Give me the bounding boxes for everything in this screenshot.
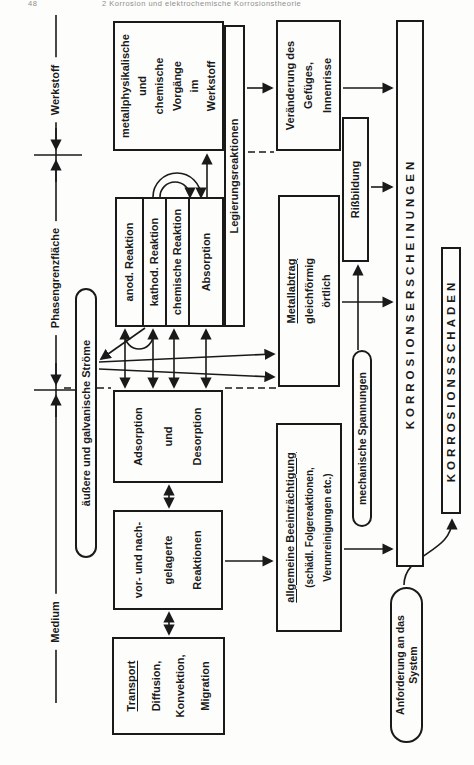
axis-label-phasengrenzflaeche: Phasengrenzfläche xyxy=(48,221,63,335)
anod-kathod-loop xyxy=(125,335,153,349)
metallphysik-line: Werkstoff xyxy=(205,61,218,112)
mechanische-spannungen-oval: mechanische Spannungen xyxy=(352,350,372,527)
veraenderung-line: Gefüges, xyxy=(302,62,315,109)
korrosionsschaden-bar: KORROSIONSSCHADEN xyxy=(441,247,461,514)
metallphysik-line: metallphysikalische xyxy=(119,34,132,138)
kathod-reaktion-row: kathod. Reaktion xyxy=(142,199,165,325)
transport-line: Konvektion, xyxy=(174,655,187,718)
absorption-row: Absorption xyxy=(188,199,222,325)
adsorption-desorption-box: Adsorption und Desorption xyxy=(113,390,223,483)
chemische-reaktion-row: chemische Reaktion xyxy=(165,199,188,325)
allgemeine-title: allgemeine Beeinträchtigung xyxy=(284,452,297,602)
arrow-cluster-stroeme xyxy=(101,328,145,359)
metallabtrag-box: Metallabtrag gleichförmig örtlich xyxy=(278,195,340,387)
book-page: 48 2 Korrosion und elektrochemische Korr… xyxy=(0,0,474,765)
korrosionserscheinungen-bar: KORROSIONSERSCHEINUNGEN xyxy=(396,20,424,567)
anforderung-system-oval: Anforderung an das System xyxy=(390,587,423,743)
veraenderung-gefuege-box: Veränderung des Gefüges, Innenrisse xyxy=(276,20,341,151)
anod-reaktion-row: anod. Reaktion xyxy=(117,199,142,325)
erscheinungen-label: KORROSIONSERSCHEINUNGEN xyxy=(404,158,416,430)
allgemeine-line: (schädl. Folgereaktionen, xyxy=(303,467,316,588)
axis-label-werkstoff: Werkstoff xyxy=(48,58,63,123)
adsorption-line: Adsorption xyxy=(132,407,145,466)
reaction-arc-inner xyxy=(160,182,190,197)
stroeme-label: äußere und galvanische Ströme xyxy=(80,340,92,506)
metallabtrag-line: örtlich xyxy=(320,274,333,308)
transport-title: Transport xyxy=(125,661,138,712)
vorgelagerte-reaktionen-box: vor- und nach- gelagerte Reaktionen xyxy=(113,510,223,610)
vor-line: Reaktionen xyxy=(191,530,204,589)
anforderung-line: Anforderung an das xyxy=(394,615,407,715)
metallabtrag-title: Metallabtrag xyxy=(285,259,298,324)
metallphysik-line: chemische xyxy=(153,58,166,115)
allgemeine-line: Verunreinigungen etc.) xyxy=(321,473,334,581)
rissbildung-box: Rißbildung xyxy=(342,117,369,262)
vor-line: gelagerte xyxy=(162,536,175,585)
metallphysik-line: im xyxy=(188,80,201,93)
transport-box: Transport Diffusion, Konvektion, Migrati… xyxy=(112,637,225,735)
rissbildung-label: Rißbildung xyxy=(349,161,362,218)
galvanische-stroeme-oval: äußere und galvanische Ströme xyxy=(75,288,97,558)
adsorption-line: Desorption xyxy=(191,407,204,465)
metallphysik-line: Vorgänge xyxy=(171,61,184,111)
axis-label-medium: Medium xyxy=(48,594,63,650)
transport-line: Migration xyxy=(199,661,212,711)
transport-line: Diffusion, xyxy=(150,661,163,712)
legierungsreaktionen-strip: Legierungsreaktionen xyxy=(224,25,245,327)
legierung-label: Legierungsreaktionen xyxy=(228,119,241,234)
allgemeine-beeintraechtigung-box: allgemeine Beeinträchtigung (schädl. Fol… xyxy=(276,423,342,632)
veraenderung-line: Veränderung des xyxy=(284,41,297,130)
schaden-label: KORROSIONSSCHADEN xyxy=(445,279,457,482)
grenzflaechen-reaktionen-box: anod. Reaktion kathod. Reaktion chemisch… xyxy=(115,197,224,327)
vor-line: vor- und nach- xyxy=(132,522,145,598)
adsorption-line: und xyxy=(162,426,175,446)
metallphysikalische-vorgaenge-box: metallphysikalische und chemische Vorgän… xyxy=(113,21,224,151)
metallabtrag-line: gleichförmig xyxy=(303,258,316,324)
veraenderung-line: Innenrisse xyxy=(321,58,334,113)
spannungen-label: mechanische Spannungen xyxy=(356,372,368,505)
metallphysik-line: und xyxy=(136,76,149,96)
corrosion-flow-diagram: Transport Diffusion, Konvektion, Migrati… xyxy=(0,0,474,765)
anforderung-line: System xyxy=(407,646,420,683)
